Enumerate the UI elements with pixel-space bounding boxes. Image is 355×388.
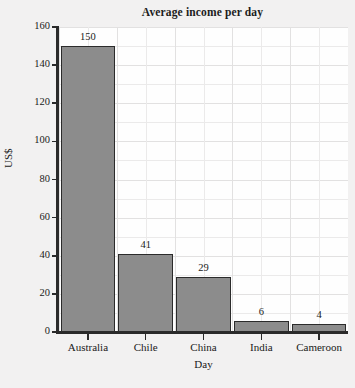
y-axis-tick: [52, 293, 57, 295]
bar-china: [176, 277, 231, 332]
y-axis-tick-label: 160: [4, 20, 50, 31]
y-axis-tick: [52, 64, 57, 66]
chart-title: Average income per day: [57, 6, 348, 18]
bar-value-label: 29: [176, 262, 231, 273]
y-axis-tick: [52, 331, 57, 333]
x-axis-tick-label: India: [250, 341, 273, 353]
y-axis-title: US$: [2, 148, 14, 168]
gridline-vertical-minor: [261, 27, 262, 332]
y-axis-tick-label: 80: [4, 173, 50, 184]
bar-value-label: 6: [234, 306, 289, 317]
y-axis-tick-label: 100: [4, 134, 50, 145]
x-axis-tick: [318, 334, 320, 340]
bar-chile: [118, 254, 173, 332]
y-axis-tick-label: 120: [4, 96, 50, 107]
y-axis-tick-label: 20: [4, 287, 50, 298]
y-axis-tick-label: 40: [4, 249, 50, 260]
bar-value-label: 4: [292, 309, 347, 320]
y-axis-tick-label: 60: [4, 211, 50, 222]
gridline-vertical-minor: [319, 27, 320, 332]
x-axis-tick-label: Cameroon: [296, 341, 342, 353]
y-axis-tick-label: 140: [4, 58, 50, 69]
y-axis-tick: [52, 217, 57, 219]
y-axis-tick: [52, 102, 57, 104]
y-axis-tick: [52, 255, 57, 257]
y-axis-tick-label: 0: [4, 325, 50, 336]
x-axis-tick: [145, 334, 147, 340]
x-axis-title: Day: [59, 358, 348, 370]
bar-value-label: 41: [118, 239, 173, 250]
x-axis-tick: [261, 334, 263, 340]
y-axis-tick: [52, 141, 57, 143]
x-axis-tick-label: Australia: [68, 341, 108, 353]
x-axis-tick: [87, 334, 89, 340]
gridline-vertical: [290, 27, 291, 332]
x-axis-tick-label: China: [190, 341, 216, 353]
y-axis-tick: [52, 179, 57, 181]
y-axis-tick: [52, 26, 57, 28]
x-axis-tick: [203, 334, 205, 340]
bar-india: [234, 321, 289, 332]
gridline-vertical: [232, 27, 233, 332]
bar-value-label: 150: [61, 31, 116, 42]
x-axis-tick-label: Chile: [134, 341, 158, 353]
bar-australia: [61, 46, 116, 332]
bar-chart: Average income per day 02040608010012014…: [0, 0, 355, 388]
bar-cameroon: [292, 324, 347, 332]
